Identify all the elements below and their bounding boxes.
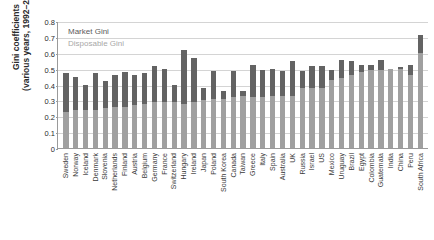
stacked-bar [63,73,68,148]
stacked-bar [398,67,403,148]
x-axis-tick-label: Norway [71,153,78,177]
bar-segment-disposable-gini [309,88,314,148]
bar-group [110,22,120,148]
x-axis-tick-label: Belgium [140,153,147,178]
stacked-bar [112,75,117,148]
x-axis-tick-label: US [318,153,325,163]
y-axis-tick-label: 0 [51,145,55,154]
bar-segment-market-gini [152,66,157,102]
bar-segment-disposable-gini [250,97,255,148]
x-axis-tick-cell: Uruguay [336,151,346,217]
x-axis-tick-label: Netherlands [111,153,118,191]
bar-segment-market-gini [191,58,196,102]
x-axis-tick-cell: Australia [277,151,287,217]
x-axis-tick-cell: Mexico [326,151,336,217]
bar-segment-market-gini [172,85,177,102]
stacked-bar [260,70,265,148]
bar-segment-disposable-gini [240,96,245,148]
x-axis-tick-label: Finland [121,153,128,176]
bar-group [297,22,307,148]
bar-group [130,22,140,148]
y-axis-tick-label: 0.4 [45,81,55,90]
bar-segment-disposable-gini [191,102,196,148]
bar-group [140,22,150,148]
bar-segment-disposable-gini [290,96,295,148]
x-axis-tick-cell: Taiwan [237,151,247,217]
bar-segment-disposable-gini [211,99,216,148]
x-axis-tick-label: Colombia [367,153,374,183]
bar-group [415,22,425,148]
x-axis-tick-labels: SwedenNorwayIcelandDenmarkSloveniaNether… [57,151,428,217]
stacked-bar [349,61,354,148]
stacked-bar [290,61,295,148]
x-axis-tick-label: Ireland [190,153,197,174]
bar-segment-disposable-gini [73,110,78,148]
bar-segment-market-gini [103,81,108,108]
bar-group [100,22,110,148]
x-axis-tick-cell: Denmark [90,151,100,217]
y-axis-tick-label: 0.1 [45,129,55,138]
stacked-bar [300,71,305,148]
bar-segment-disposable-gini [83,110,88,148]
bar-segment-disposable-gini [408,75,413,148]
x-axis-tick-label: Japan [199,153,206,172]
stacked-bar [132,75,137,148]
bar-group [81,22,91,148]
bar-segment-disposable-gini [260,97,265,148]
bar-group [159,22,169,148]
bar-segment-disposable-gini [172,102,177,148]
bar-segment-disposable-gini [378,70,383,148]
stacked-bar [172,85,177,148]
bar-group [91,22,101,148]
bar-segment-market-gini [270,69,275,95]
plot-area: 0.80.70.60.50.40.30.20.10 Market Gini Di… [57,22,428,149]
y-axis-tick-label: 0.5 [45,65,55,74]
bar-segment-disposable-gini [319,88,324,148]
x-axis-tick-cell: Poland [208,151,218,217]
stacked-bar [368,65,373,148]
x-axis-tick-cell: Netherlands [109,151,119,217]
x-axis-tick-cell: Norway [70,151,80,217]
bar-segment-market-gini [418,35,423,52]
x-axis-tick-cell: Iceland [80,151,90,217]
stacked-bar [191,58,196,148]
stacked-bar [122,72,127,148]
x-axis-tick-label: France [160,153,167,175]
bar-segment-market-gini [349,61,354,75]
bar-segment-disposable-gini [152,102,157,148]
bar-series-container [58,22,428,148]
x-axis-tick-label: South Korea [219,153,226,192]
bar-group [209,22,219,148]
x-axis-tick-label: Austria [130,153,137,175]
bar-segment-market-gini [290,61,295,96]
stacked-bar [162,69,167,148]
bar-segment-market-gini [329,70,334,80]
x-axis-tick-label: Brazil [347,153,354,171]
stacked-bar [240,91,245,148]
x-axis-tick-cell: Finland [119,151,129,217]
bar-group [219,22,229,148]
bar-segment-disposable-gini [231,97,236,148]
y-axis-tick-label: 0.2 [45,113,55,122]
x-axis-tick-cell: UK [287,151,297,217]
x-axis-tick-cell: Switzerland [168,151,178,217]
x-axis-tick-label: Australia [278,153,285,180]
x-axis-tick-cell: Israel [306,151,316,217]
x-axis-tick-label: Egypt [357,153,364,171]
x-axis-tick-label: Taiwan [239,153,246,175]
x-axis-tick-label: Guatemala [377,153,384,187]
bar-segment-disposable-gini [280,96,285,148]
bar-segment-market-gini [250,65,255,97]
x-axis-tick-label: Uruguay [337,153,344,179]
bar-segment-market-gini [73,77,78,110]
x-axis-tick-cell: Brazil [346,151,356,217]
bar-segment-disposable-gini [201,100,206,148]
y-axis-tick-mark [56,149,58,150]
bar-segment-market-gini [162,69,167,102]
y-axis-tick-label: 0.7 [45,33,55,42]
bar-segment-market-gini [408,65,413,75]
bar-segment-disposable-gini [349,75,354,148]
x-axis-tick-cell: Egypt [356,151,366,217]
bar-segment-disposable-gini [103,108,108,148]
bar-segment-disposable-gini [63,112,68,149]
